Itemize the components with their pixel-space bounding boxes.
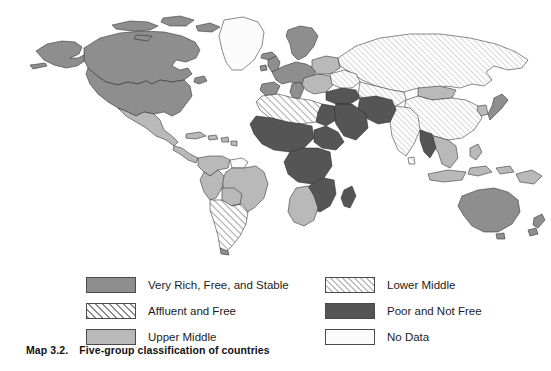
figure-caption-title: Five-group classification of countries <box>79 344 270 356</box>
world-map <box>0 8 551 256</box>
legend-column-left: Very Rich, Free, and Stable Affluent and… <box>86 274 289 352</box>
legend-swatch-lower-middle <box>325 277 375 293</box>
map-legend: Very Rich, Free, and Stable Affluent and… <box>0 274 551 340</box>
region-sri-lanka <box>408 157 415 164</box>
legend-label-poor-and-not-free: Poor and Not Free <box>387 305 482 318</box>
legend-item-poor-and-not-free: Poor and Not Free <box>325 300 482 322</box>
legend-swatch-poor-and-not-free <box>325 303 375 319</box>
legend-label-no-data: No Data <box>387 331 429 344</box>
legend-item-lower-middle: Lower Middle <box>325 274 482 296</box>
legend-swatch-no-data <box>325 329 375 345</box>
legend-swatch-affluent-and-free <box>86 303 136 319</box>
legend-item-no-data: No Data <box>325 326 482 348</box>
legend-column-right: Lower Middle Poor and Not Free No Data <box>325 274 482 352</box>
legend-swatch-very-rich-free-and-stable <box>86 277 136 293</box>
figure-caption-number: Map 3.2. <box>26 344 68 356</box>
map-figure: Very Rich, Free, and Stable Affluent and… <box>0 0 551 371</box>
figure-caption: Map 3.2.Five-group classification of cou… <box>26 344 270 356</box>
legend-label-upper-middle: Upper Middle <box>148 331 216 344</box>
world-map-container <box>0 8 551 256</box>
legend-label-affluent-and-free: Affluent and Free <box>148 305 236 318</box>
legend-item-affluent-and-free: Affluent and Free <box>86 300 289 322</box>
legend-label-very-rich-free-and-stable: Very Rich, Free, and Stable <box>148 279 289 292</box>
region-tasmania <box>496 233 505 239</box>
legend-swatch-upper-middle <box>86 329 136 345</box>
legend-label-lower-middle: Lower Middle <box>387 279 455 292</box>
legend-item-very-rich-free-and-stable: Very Rich, Free, and Stable <box>86 274 289 296</box>
